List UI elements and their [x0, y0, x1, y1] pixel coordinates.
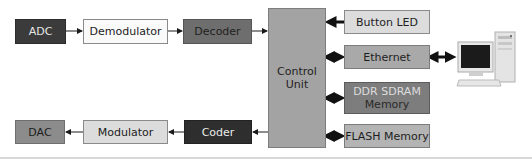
- modulator-label: Modulator: [98, 126, 154, 139]
- adc-label: ADC: [29, 25, 53, 38]
- ethernet-block: Ethernet: [344, 45, 430, 69]
- flash-memory-label: FLASH Memory: [345, 130, 429, 143]
- control-unit-block: Control Unit: [268, 8, 326, 148]
- flash-memory-block: FLASH Memory: [344, 124, 430, 148]
- ddr-sdram-block: DDR SDRAM Memory: [344, 82, 430, 114]
- button-led-label: Button LED: [356, 16, 418, 29]
- adc-block: ADC: [15, 19, 66, 44]
- modulator-block: Modulator: [83, 120, 168, 144]
- coder-block: Coder: [184, 120, 252, 144]
- desktop-computer-icon: [455, 30, 520, 90]
- ddr-sdram-label-line1: DDR SDRAM: [353, 85, 421, 98]
- demodulator-block: Demodulator: [83, 19, 168, 44]
- dac-label: DAC: [28, 126, 51, 139]
- button-led-block: Button LED: [344, 10, 430, 34]
- connectors: [0, 0, 532, 163]
- coder-label: Coder: [202, 126, 235, 139]
- ethernet-label: Ethernet: [363, 51, 410, 64]
- demodulator-label: Demodulator: [90, 25, 162, 38]
- bottom-divider: [0, 157, 532, 159]
- dac-block: DAC: [15, 120, 65, 144]
- decoder-block: Decoder: [183, 19, 252, 44]
- control-unit-label-line1: Control: [277, 65, 317, 78]
- decoder-label: Decoder: [194, 25, 240, 38]
- ddr-sdram-label-line2: Memory: [365, 98, 410, 111]
- control-unit-label-line2: Unit: [286, 78, 308, 91]
